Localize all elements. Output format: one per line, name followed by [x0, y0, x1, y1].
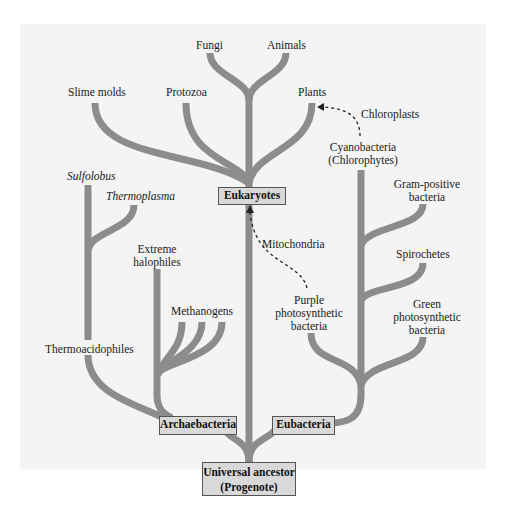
- box-eukaryotes: Eukaryotes: [218, 187, 286, 205]
- branch-fungi: [210, 53, 249, 100]
- label-mitochondria: Mitochondria: [262, 238, 325, 251]
- chloroplasts-arrowhead-icon: [317, 103, 324, 111]
- label-sulfolobus: Sulfolobus: [67, 170, 116, 183]
- root-label-line1: Universal ancestor: [203, 465, 295, 480]
- label-purple-line2: photosynthetic: [274, 307, 344, 320]
- box-eubacteria: Eubacteria: [272, 416, 335, 435]
- branch-thermoplasma: [88, 205, 134, 250]
- chloroplasts-arrow: [322, 107, 360, 136]
- label-cyanobacteria-line2: (Chlorophytes): [328, 154, 398, 167]
- label-chloroplasts: Chloroplasts: [361, 108, 419, 121]
- label-gram-positive-line2: bacteria: [391, 191, 463, 204]
- label-halophiles-line1: Extreme: [132, 243, 182, 256]
- box-archaebacteria: Archaebacteria: [159, 416, 237, 435]
- label-green-line1: Green: [392, 298, 462, 311]
- label-green-line2: photosynthetic: [392, 311, 462, 324]
- label-cyanobacteria-line1: Cyanobacteria: [328, 141, 398, 154]
- label-thermoacidophiles: Thermoacidophiles: [45, 343, 134, 356]
- label-purple-line3: bacteria: [274, 320, 344, 333]
- branch-spirochetes: [361, 263, 423, 300]
- label-animals: Animals: [267, 39, 306, 52]
- branch-plants: [249, 103, 312, 183]
- label-plants: Plants: [298, 86, 326, 99]
- label-halophiles-line2: halophiles: [132, 256, 182, 269]
- label-green-photosynthetic: Green photosynthetic bacteria: [392, 298, 462, 337]
- label-fungi: Fungi: [196, 39, 223, 52]
- label-green-line3: bacteria: [392, 324, 462, 337]
- label-purple-photosynthetic: Purple photosynthetic bacteria: [274, 294, 344, 333]
- label-cyanobacteria: Cyanobacteria (Chlorophytes): [328, 141, 398, 167]
- label-gram-positive-line1: Gram-positive: [391, 178, 463, 191]
- branch-animals: [249, 53, 286, 100]
- label-methanogens: Methanogens: [171, 305, 233, 318]
- box-universal-ancestor: Universal ancestor (Progenote): [202, 462, 296, 496]
- label-slime-molds: Slime molds: [68, 86, 126, 99]
- label-spirochetes: Spirochetes: [396, 248, 450, 261]
- label-gram-positive: Gram-positive bacteria: [391, 178, 463, 204]
- label-thermoplasma: Thermoplasma: [106, 190, 175, 203]
- label-protozoa: Protozoa: [166, 86, 207, 99]
- label-purple-line1: Purple: [274, 294, 344, 307]
- branch-halophiles: [157, 269, 172, 418]
- tree-branches: [0, 0, 508, 529]
- branch-gram-positive: [361, 204, 423, 245]
- label-extreme-halophiles: Extreme halophiles: [132, 243, 182, 269]
- branch-purple: [311, 333, 361, 385]
- root-label-line2: (Progenote): [203, 480, 295, 495]
- branch-green: [361, 337, 423, 385]
- branch-slime-molds: [95, 103, 249, 183]
